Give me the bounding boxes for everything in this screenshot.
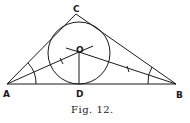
figure-12-diagram: A B C O D Fig. 12. <box>0 0 190 123</box>
label-o: O <box>76 45 84 55</box>
tick-mark-bo <box>127 66 129 72</box>
label-c: C <box>73 4 80 14</box>
angle-arc-a <box>28 63 36 84</box>
label-a: A <box>3 89 10 99</box>
bisector-ao <box>7 52 79 84</box>
label-b: B <box>176 90 183 100</box>
figure-caption: Fig. 12. <box>71 104 114 115</box>
label-d: D <box>76 89 83 99</box>
